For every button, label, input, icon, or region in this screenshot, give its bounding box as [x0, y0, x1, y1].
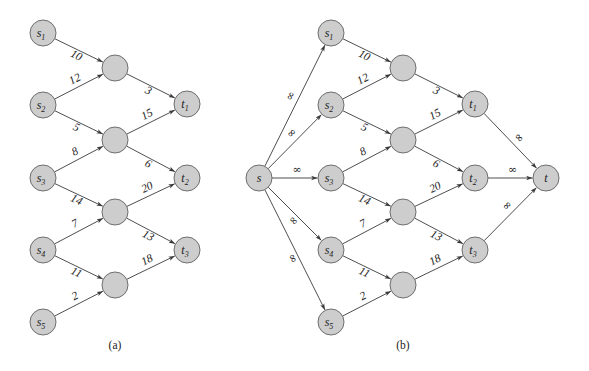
node-s2: s2	[30, 92, 56, 118]
edge-capacity-label: 2	[69, 289, 80, 302]
node-intermediate	[102, 199, 128, 225]
node-s3: s3	[30, 165, 56, 191]
edge-capacity-label: 5	[359, 120, 370, 133]
node-intermediate	[390, 55, 416, 81]
edge-m3-t3: 13	[414, 218, 463, 244]
edge-s2-m1: 12	[343, 71, 391, 100]
edge-capacity-label: 13	[429, 227, 445, 243]
edge-capacity-label: 14	[357, 192, 373, 208]
edge-s2-m2: 5	[343, 111, 391, 134]
edge-capacity-label: 11	[357, 264, 372, 279]
edge-capacity-label: 3	[430, 83, 442, 97]
edge-m4-t3: 18	[415, 251, 463, 279]
node-t1: t1	[462, 91, 488, 117]
node-t: t	[533, 165, 559, 191]
edge-s4-m3: 7	[342, 216, 391, 244]
edge-capacity-label: ∞	[286, 213, 302, 229]
panel-a-graph: 1012581471123156201318 s1s2s3s4s5t1t2t3 …	[30, 20, 200, 352]
edge-m2-t1: 15	[415, 106, 463, 134]
edge-capacity-label: 6	[431, 157, 442, 170]
node-intermediate	[102, 272, 128, 298]
edge-t3-t: ∞	[484, 188, 536, 241]
edge-capacity-label: 10	[69, 47, 85, 63]
edge-s3-m3: 14	[55, 184, 103, 208]
edge-capacity-label: 8	[357, 144, 368, 157]
flow-network-figure: 1012581471123156201318 s1s2s3s4s5t1t2t3 …	[0, 0, 589, 371]
edge-capacity-label: 15	[139, 106, 155, 122]
edge-m2-t2: 6	[126, 146, 175, 172]
edge-capacity-label: 6	[143, 157, 154, 170]
node-s5: s5	[318, 309, 344, 335]
edge-s-s1: ∞	[265, 45, 325, 166]
edge-s1-m1: 10	[55, 39, 103, 63]
node-s4: s4	[318, 237, 344, 263]
node-intermediate	[390, 199, 416, 225]
panel-b-nodes: ss1s2s3s4s5t1t2t3t	[246, 20, 559, 335]
node-intermediate	[390, 127, 416, 153]
edge-m2-t2: 6	[414, 146, 463, 172]
node-t1: t1	[174, 91, 200, 117]
node-intermediate	[390, 272, 416, 298]
node-t2: t2	[174, 165, 200, 191]
edge-s-s3: ∞	[272, 163, 318, 178]
edge-capacity-label: ∞	[282, 89, 298, 103]
node-s4: s4	[30, 237, 56, 263]
node-s1: s1	[30, 20, 56, 46]
edge-capacity-label: 20	[139, 179, 155, 195]
panel-b-graph: ∞∞∞∞∞1012581471123156201318∞∞∞ ss1s2s3s4…	[246, 20, 559, 352]
edge-capacity-label: ∞	[511, 130, 527, 146]
panel-a-caption: (a)	[109, 339, 122, 352]
edge-s-s5: ∞	[265, 190, 325, 310]
node-t3: t3	[462, 237, 488, 263]
edge-capacity-label: ∞	[284, 125, 300, 141]
edge-s3-m2: 8	[54, 144, 103, 172]
edge-s5-m4: 2	[343, 289, 391, 316]
node-s5: s5	[30, 309, 56, 335]
edge-m3-t2: 20	[415, 179, 463, 206]
edge-capacity-label: 11	[69, 264, 84, 279]
edge-capacity-label: 18	[427, 251, 443, 267]
edge-capacity-label: 7	[69, 216, 81, 230]
node-s1: s1	[318, 20, 344, 46]
edge-s5-m4: 2	[55, 289, 103, 316]
edge-s3-m3: 14	[343, 184, 391, 208]
edge-s-s2: ∞	[268, 115, 321, 169]
edge-capacity-label: ∞	[292, 163, 301, 176]
edge-capacity-label: ∞	[508, 163, 517, 176]
edge-capacity-label: ∞	[499, 198, 515, 214]
edge-capacity-label: 2	[357, 289, 368, 302]
edge-capacity-label: 13	[141, 227, 157, 243]
edge-m3-t3: 13	[126, 218, 175, 244]
edge-m4-t3: 18	[127, 251, 175, 279]
node-intermediate	[102, 127, 128, 153]
edge-s4-m4: 11	[343, 256, 391, 280]
edge-m2-t1: 15	[127, 106, 175, 134]
panel-a-nodes: s1s2s3s4s5t1t2t3	[30, 20, 200, 335]
edge-s2-m1: 12	[55, 71, 103, 100]
edge-capacity-label: 20	[427, 179, 443, 195]
edge-capacity-label: 12	[355, 71, 371, 87]
edge-m1-t1: 3	[127, 74, 175, 98]
edge-t1-t: ∞	[484, 113, 537, 168]
edge-capacity-label: 15	[427, 106, 443, 122]
edge-capacity-label: ∞	[285, 251, 301, 265]
node-t2: t2	[462, 165, 488, 191]
edge-capacity-label: 18	[139, 251, 155, 267]
edge-capacity-label: 3	[142, 83, 154, 97]
node-s: s	[246, 165, 272, 191]
node-intermediate	[102, 55, 128, 81]
node-s3: s3	[318, 165, 344, 191]
node-t3: t3	[174, 237, 200, 263]
edge-m1-t1: 3	[415, 74, 463, 98]
edge-capacity-label: 14	[69, 192, 85, 208]
edge-s3-m2: 8	[342, 144, 391, 172]
edge-s-s4: ∞	[268, 187, 321, 240]
edge-t2-t: ∞	[488, 163, 533, 178]
panel-b-caption: (b)	[396, 339, 410, 352]
edge-capacity-label: 10	[357, 47, 373, 63]
edge-s4-m4: 11	[55, 256, 103, 280]
edge-m3-t2: 20	[127, 179, 175, 206]
edge-s1-m1: 10	[343, 39, 391, 63]
edge-s2-m2: 5	[55, 111, 103, 134]
node-label: s	[257, 171, 262, 185]
